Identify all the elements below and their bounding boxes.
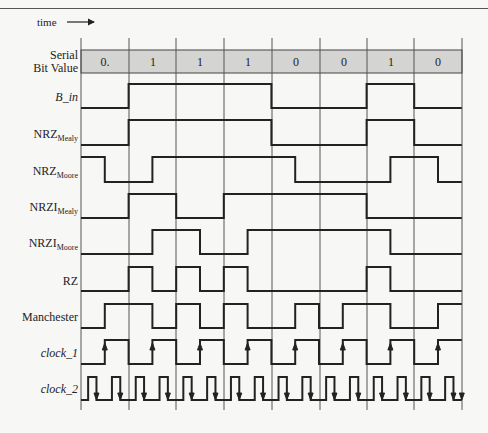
b-in-waveform: [81, 84, 462, 108]
bit-cell: 0.: [81, 55, 129, 70]
bit-cell: 1: [367, 55, 415, 70]
bit-cell: 0: [320, 55, 368, 70]
waveforms: [81, 84, 462, 364]
bit-cell: 1: [129, 55, 177, 70]
manchester-waveform: [81, 304, 462, 328]
nrzi-mealy-waveform: [81, 194, 462, 218]
bit-cell: 1: [224, 55, 272, 70]
bit-cell: 1: [176, 55, 224, 70]
nrz-moore-waveform: [81, 157, 462, 182]
clock-1-waveform: [81, 340, 462, 364]
nrzi-moore-waveform: [81, 230, 462, 254]
nrz-mealy-waveform: [81, 120, 462, 145]
bit-cell: 0: [414, 55, 462, 70]
bit-cell: 0: [272, 55, 320, 70]
rz-waveform: [81, 267, 462, 291]
